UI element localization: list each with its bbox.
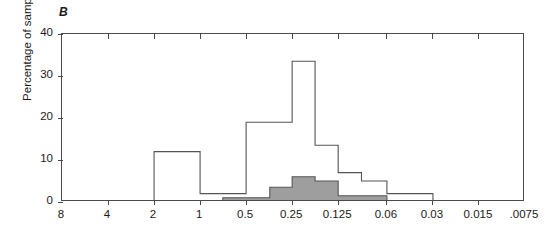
x-tick-label-8: 8 [58, 209, 64, 220]
y-tick-label-20: 20 [25, 111, 53, 122]
x-tick-bottom-1 [200, 200, 201, 205]
y-tick-30 [58, 76, 63, 77]
x-tick-bottom-0.03 [432, 200, 433, 205]
x-tick-label-0.03: 0.03 [421, 209, 443, 220]
x-tick-bottom-0.125 [338, 200, 339, 205]
x-tick-label-0.5: 0.5 [237, 209, 253, 220]
x-tick-bottom-2 [154, 200, 155, 205]
x-tick-label-1: 1 [196, 209, 202, 220]
x-tick-top-0.015 [478, 34, 479, 39]
y-tick-label-30: 30 [25, 69, 53, 80]
x-tick-top-0.03 [432, 34, 433, 39]
y-tick-label-10: 10 [25, 153, 53, 164]
x-tick-bottom-0.015 [478, 200, 479, 205]
x-tick-top-2 [154, 34, 155, 39]
y-tick-10 [58, 160, 63, 161]
x-tick-label-2: 2 [150, 209, 156, 220]
x-tick-label-4: 4 [104, 209, 110, 220]
y-tick-0 [58, 202, 63, 203]
histogram-svg [62, 34, 523, 200]
x-tick-top-1 [200, 34, 201, 39]
figure-panel-b: B Percentage of sample 01020304084210.50… [0, 0, 551, 239]
x-tick-label-0.25: 0.25 [280, 209, 302, 220]
panel-label-b: B [59, 6, 68, 18]
x-tick-label-0.125: 0.125 [323, 209, 352, 220]
x-tick-top-0.125 [338, 34, 339, 39]
x-tick-bottom-0.5 [246, 200, 247, 205]
x-tick-top-0.06 [386, 34, 387, 39]
y-tick-40 [58, 34, 63, 35]
x-tick-bottom-0.25 [292, 200, 293, 205]
x-tick-bottom-0.06 [386, 200, 387, 205]
x-tick-top-0.5 [246, 34, 247, 39]
series-shaded-subset [62, 177, 523, 200]
y-tick-label-40: 40 [25, 27, 53, 38]
x-tick-label-0.015: 0.015 [464, 209, 493, 220]
x-tick-top-4 [108, 34, 109, 39]
x-tick-bottom-4 [108, 200, 109, 205]
x-tick-label-0.06: 0.06 [375, 209, 397, 220]
plot-inner [62, 34, 523, 200]
x-tick-label-.0075: .0075 [510, 209, 539, 220]
x-tick-top-0.25 [292, 34, 293, 39]
y-tick-20 [58, 118, 63, 119]
y-tick-label-0: 0 [25, 195, 53, 206]
plot-area [61, 33, 524, 201]
